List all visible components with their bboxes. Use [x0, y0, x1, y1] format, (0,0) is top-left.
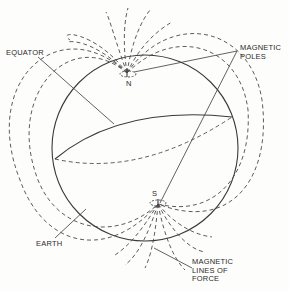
label-magnetic-poles: MAGNETIC POLES [240, 44, 281, 61]
label-equator: EQUATOR [6, 49, 44, 58]
equator-front [55, 115, 232, 159]
pointer-lines-of-force [154, 248, 192, 268]
pointer-equator [38, 57, 114, 124]
pointer-to-north-pole [134, 51, 237, 72]
pointer-to-south-pole [160, 51, 237, 203]
label-magnetic-lines-of-force: MAGNETIC LINES OF FORCE [192, 258, 233, 284]
label-earth: EARTH [36, 240, 62, 249]
earth-circle [52, 55, 238, 241]
label-north: N [126, 80, 132, 89]
magnetic-field-lines [9, 8, 263, 270]
label-south: S [152, 190, 157, 199]
